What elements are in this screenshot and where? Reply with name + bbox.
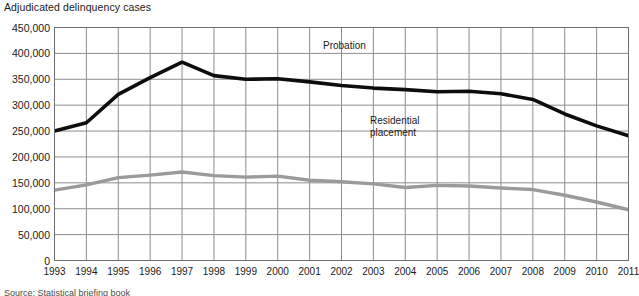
gridlines: [54, 27, 629, 261]
x-axis-tick-label: 2008: [522, 266, 544, 277]
x-axis-tick-label: 2002: [330, 266, 352, 277]
source-note: Source: Statistical briefing book: [4, 288, 130, 296]
x-axis-tick-label: 2003: [362, 266, 384, 277]
y-axis-tick-label: 100,000: [12, 203, 50, 214]
x-axis-tick-label: 1997: [171, 266, 193, 277]
series-label-residential-line1: Residential: [370, 115, 419, 127]
x-axis-tick-label: 1998: [203, 266, 225, 277]
y-axis-tick-label: 450,000: [12, 22, 50, 33]
y-axis-tick-label: 0: [44, 255, 50, 266]
x-axis-tick-label: 1995: [107, 266, 129, 277]
plot-area: 450,000400,000350,000300,000250,000200,0…: [54, 27, 629, 261]
x-axis-tick-label: 2010: [585, 266, 607, 277]
x-axis-tick-label: 2000: [267, 266, 289, 277]
x-axis-tick-label: 2011: [618, 266, 639, 277]
y-axis-tick-label: 350,000: [12, 74, 50, 85]
x-axis-tick-label: 1996: [139, 266, 161, 277]
x-axis-tick-label: 1994: [75, 266, 97, 277]
chart-canvas: [54, 27, 629, 261]
x-axis-tick-label: 1993: [43, 266, 65, 277]
series-label-residential: Residential placement: [370, 115, 419, 138]
x-axis-tick-label: 2007: [490, 266, 512, 277]
y-axis-tick-label: 300,000: [12, 100, 50, 111]
y-axis-tick-label: 250,000: [12, 126, 50, 137]
y-axis-tick-label: 150,000: [12, 177, 50, 188]
x-axis-tick-label: 2009: [554, 266, 576, 277]
x-axis-tick-label: 2006: [458, 266, 480, 277]
series-label-probation: Probation: [323, 40, 366, 52]
series-label-residential-line2: placement: [370, 127, 419, 139]
x-axis-tick-label: 2005: [426, 266, 448, 277]
y-axis-tick-label: 400,000: [12, 48, 50, 59]
y-axis-tick-label: 50,000: [18, 229, 50, 240]
y-axis-tick-label: 200,000: [12, 151, 50, 162]
x-axis-tick-label: 2001: [298, 266, 320, 277]
x-axis-tick-label: 2004: [394, 266, 416, 277]
x-axis-tick-label: 1999: [235, 266, 257, 277]
page-title: Adjudicated delinquency cases: [4, 1, 151, 14]
